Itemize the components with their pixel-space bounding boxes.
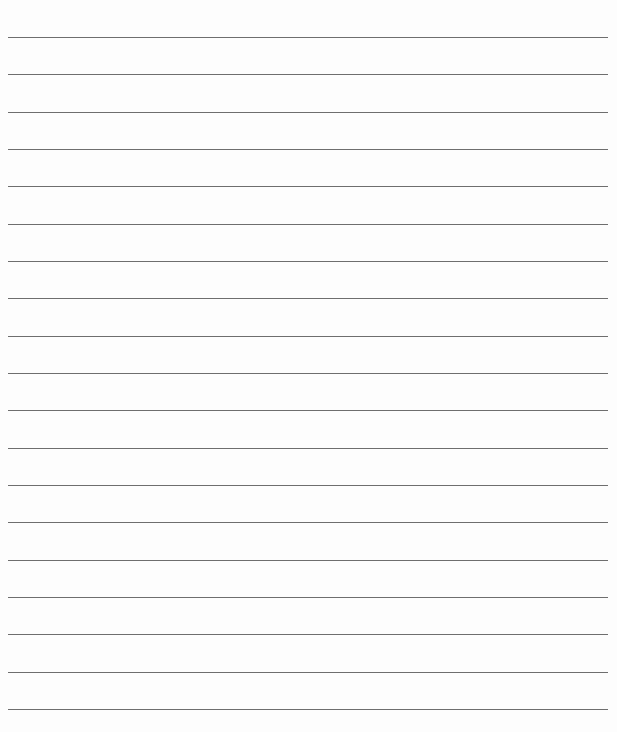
ruled-line: [8, 634, 608, 635]
ruled-line: [8, 448, 608, 449]
lined-paper: [0, 0, 617, 732]
ruled-line: [8, 672, 608, 673]
ruled-line: [8, 410, 608, 411]
ruled-line: [8, 373, 608, 374]
ruled-line: [8, 74, 608, 75]
ruled-line: [8, 261, 608, 262]
ruled-line: [8, 522, 608, 523]
ruled-line: [8, 336, 608, 337]
ruled-line: [8, 37, 608, 38]
ruled-line: [8, 112, 608, 113]
ruled-line: [8, 560, 608, 561]
ruled-line: [8, 485, 608, 486]
ruled-line: [8, 149, 608, 150]
ruled-line: [8, 709, 608, 710]
ruled-line: [8, 186, 608, 187]
ruled-line: [8, 597, 608, 598]
ruled-line: [8, 224, 608, 225]
ruled-line: [8, 298, 608, 299]
